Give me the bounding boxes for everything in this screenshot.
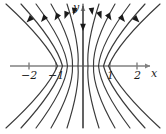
x-tick-label--2: −2	[21, 70, 37, 81]
x-tick-label-2: 2	[134, 70, 141, 81]
x-tick-label--1: −1	[48, 70, 64, 81]
arrowhead-curve-7	[89, 7, 96, 15]
arrowhead-curve-6	[80, 24, 86, 31]
plot-canvas	[0, 0, 166, 134]
arrowhead-curve-8	[96, 11, 104, 20]
y-axis-label: y	[73, 2, 79, 13]
x-axis-label: x	[151, 68, 157, 79]
arrowhead-curve-4	[62, 11, 70, 20]
x-tick-label-1: 1	[107, 70, 114, 81]
figure-container: −2 −1 1 2 x y	[0, 0, 166, 134]
